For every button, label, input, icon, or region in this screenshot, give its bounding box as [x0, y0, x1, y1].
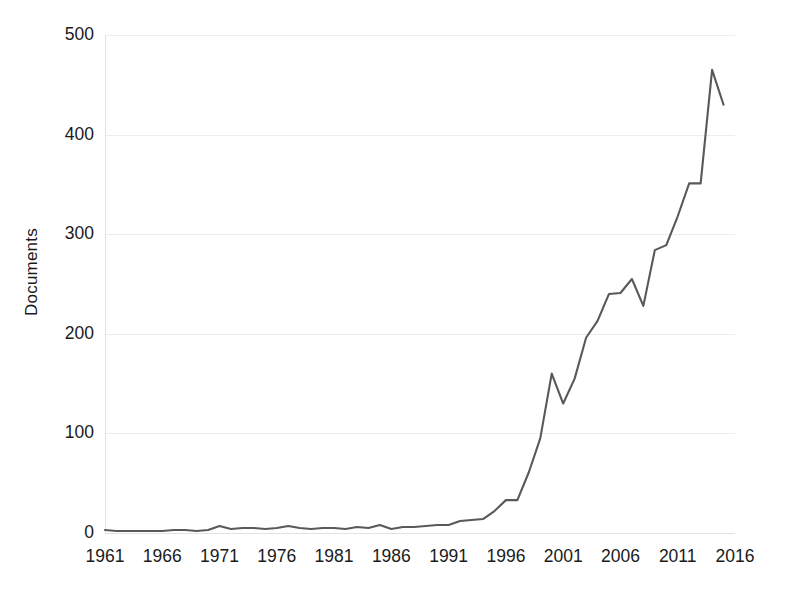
- plot-area: [0, 0, 786, 596]
- data-series-line: [105, 70, 724, 531]
- footer-strip: [0, 578, 786, 596]
- line-chart: Documents 0100200300400500 1961196619711…: [0, 0, 786, 596]
- gridlines: [105, 36, 735, 534]
- axis-lines: [105, 35, 735, 534]
